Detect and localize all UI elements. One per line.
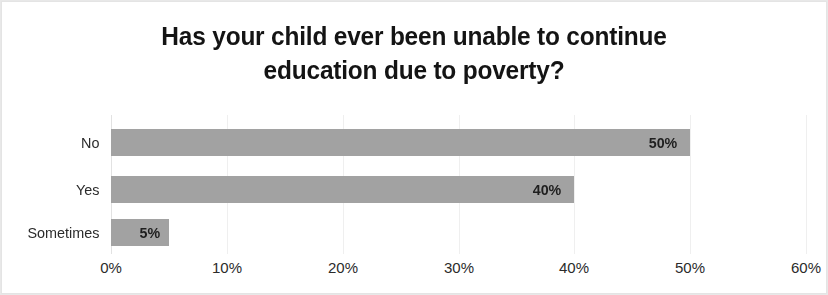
bar-value-label-sometimes: 5%: [140, 219, 161, 246]
category-axis: No Yes Sometimes: [1, 115, 111, 254]
category-label-no: No: [7, 129, 111, 156]
chart-title-line-2: education due to poverty?: [26, 53, 802, 87]
category-label-yes: Yes: [7, 176, 111, 203]
bar-value-label-no: 50%: [649, 129, 678, 156]
xtick-0: 0%: [100, 259, 122, 276]
xtick-30: 30%: [444, 259, 474, 276]
bar-yes[interactable]: [111, 176, 574, 203]
chart-screenshot: Has your child ever been unable to conti…: [0, 0, 828, 295]
bar-value-label-yes: 40%: [533, 176, 562, 203]
value-axis-ticks: 0% 10% 20% 30% 40% 50% 60%: [1, 259, 828, 285]
bar-no[interactable]: [111, 129, 690, 156]
xtick-40: 40%: [559, 259, 589, 276]
bar-row-sometimes[interactable]: 5%: [111, 219, 169, 246]
plot-area: 50% 40% 5%: [111, 115, 806, 254]
gridline-50: [690, 115, 691, 254]
chart-title-line-1: Has your child ever been unable to conti…: [26, 19, 802, 53]
bar-row-no[interactable]: 50%: [111, 129, 690, 156]
gridline-60: [806, 115, 807, 254]
xtick-50: 50%: [675, 259, 705, 276]
bar-row-yes[interactable]: 40%: [111, 176, 574, 203]
xtick-10: 10%: [212, 259, 242, 276]
xtick-20: 20%: [328, 259, 358, 276]
category-label-sometimes: Sometimes: [7, 219, 111, 246]
xtick-60: 60%: [791, 259, 821, 276]
chart-title: Has your child ever been unable to conti…: [26, 19, 802, 88]
